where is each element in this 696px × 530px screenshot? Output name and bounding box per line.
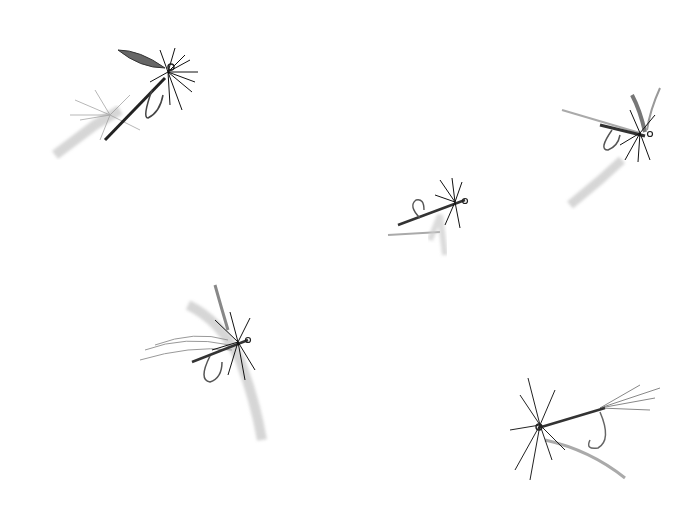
fly-center [388,178,468,255]
fly-bottom-left [140,285,262,440]
flies-drawing [0,0,696,530]
fly-top-left [55,48,198,155]
fishing-flies-illustration [0,0,696,530]
fly-bottom-right [510,378,660,480]
fly-top-right [562,88,660,205]
